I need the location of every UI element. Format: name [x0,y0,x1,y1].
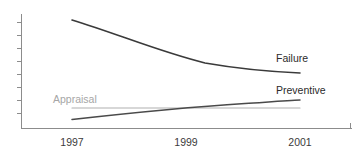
series-label-appraisal: Appraisal [53,93,97,105]
x-axis-label-1997: 1997 [60,136,84,148]
x-axis-label-2001: 2001 [288,136,312,148]
chart-container: Failure Preventive Appraisal 1997 1999 2… [0,0,363,159]
line-chart: Failure Preventive Appraisal 1997 1999 2… [0,0,363,159]
x-axis-label-1999: 1999 [174,136,198,148]
series-label-failure: Failure [276,52,308,64]
series-line-preventive [72,100,300,120]
y-axis-ticks [17,23,21,114]
series-label-preventive: Preventive [276,84,326,96]
series-line-failure [72,20,300,73]
